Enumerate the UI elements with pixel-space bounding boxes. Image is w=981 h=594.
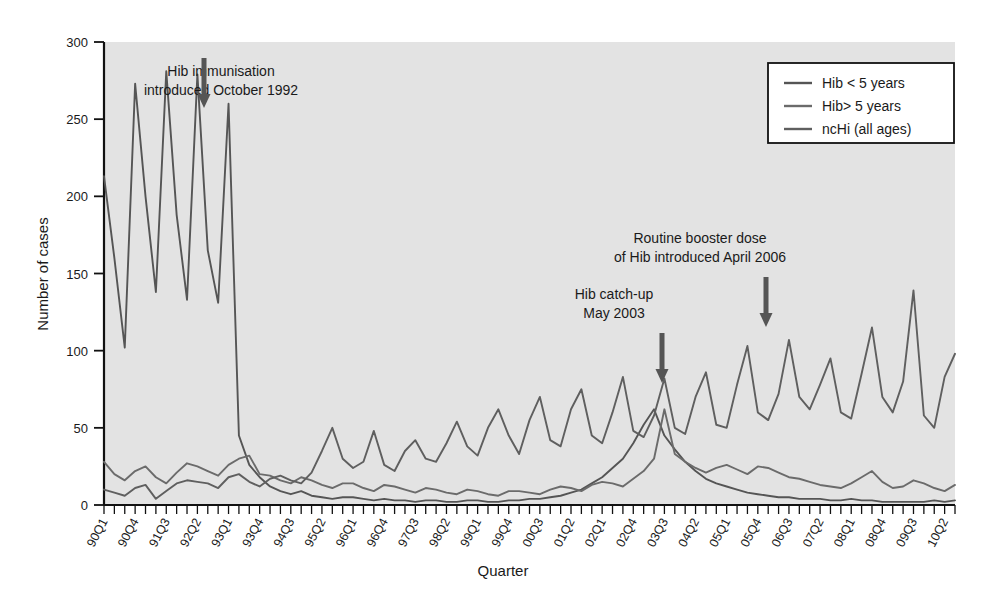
annotation-text-line: May 2003 bbox=[583, 305, 645, 321]
annotation-text-line: introduced October 1992 bbox=[144, 82, 298, 98]
y-tick-label-300: 300 bbox=[66, 35, 88, 50]
chart-container: 050100150200250300 90Q190Q491Q392Q293Q19… bbox=[0, 0, 981, 594]
y-tick-label-200: 200 bbox=[66, 189, 88, 204]
legend[interactable]: Hib < 5 yearsHib> 5 yearsncHi (all ages) bbox=[768, 63, 954, 143]
y-tick-label-50: 50 bbox=[74, 421, 88, 436]
y-tick-label-100: 100 bbox=[66, 344, 88, 359]
y-tick-label-0: 0 bbox=[81, 498, 88, 513]
x-axis-title: Quarter bbox=[478, 562, 529, 579]
legend-label-2: ncHi (all ages) bbox=[822, 121, 911, 137]
y-tick-label-150: 150 bbox=[66, 267, 88, 282]
annotation-text-line: Hib catch-up bbox=[575, 286, 654, 302]
legend-label-1: Hib> 5 years bbox=[822, 98, 901, 114]
line-chart-figure: 050100150200250300 90Q190Q491Q392Q293Q19… bbox=[0, 0, 981, 594]
annotation-text-line: of Hib introduced April 2006 bbox=[614, 249, 786, 265]
annotation-text-line: Hib immunisation bbox=[167, 63, 274, 79]
y-axis-title: Number of cases bbox=[34, 217, 51, 330]
annotation-text-line: Routine booster dose bbox=[633, 230, 766, 246]
y-tick-label-250: 250 bbox=[66, 112, 88, 127]
legend-label-0: Hib < 5 years bbox=[822, 75, 905, 91]
